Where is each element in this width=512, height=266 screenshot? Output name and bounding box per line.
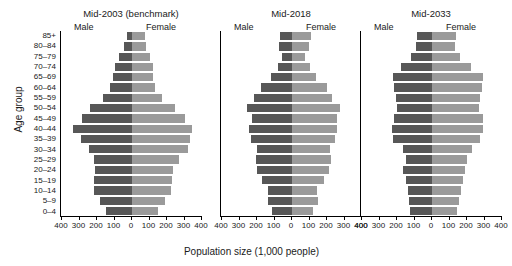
- bar-row: [62, 41, 202, 51]
- bar-row: [62, 144, 202, 154]
- bar-female: [292, 125, 337, 133]
- bar-row: [62, 72, 202, 82]
- bar-female: [292, 53, 305, 61]
- bar-male: [252, 114, 292, 122]
- bar-female: [132, 207, 158, 215]
- bar-row: [62, 31, 202, 41]
- x-tick-mark: [309, 217, 310, 220]
- bar-female: [292, 207, 313, 215]
- bar-female: [132, 197, 165, 205]
- bar-female: [432, 53, 460, 61]
- bar-female: [132, 114, 185, 122]
- age-tick: 75–79: [16, 52, 58, 62]
- bar-group: [362, 31, 502, 216]
- bar-male: [115, 63, 132, 71]
- age-tick: 5–9: [16, 196, 58, 206]
- bar-female: [432, 186, 461, 194]
- age-tick: 45–49: [16, 114, 58, 124]
- x-tick-mark: [184, 217, 185, 220]
- bar-row: [362, 62, 502, 72]
- bar-female: [292, 135, 335, 143]
- bar-male: [254, 94, 292, 102]
- x-tick-mark: [79, 217, 80, 220]
- bar-row: [222, 72, 362, 82]
- age-tick: 70–74: [16, 62, 58, 72]
- panel-mid-2033: Mid-2033 Male Female 4003002001000100200…: [360, 8, 502, 256]
- bar-female: [432, 114, 483, 122]
- bar-female: [432, 166, 465, 174]
- bar-male: [406, 155, 432, 163]
- x-tick-mark: [221, 217, 222, 220]
- bar-female: [292, 197, 318, 205]
- bar-female: [292, 166, 329, 174]
- bar-group: [222, 31, 362, 216]
- bar-row: [362, 175, 502, 185]
- bar-row: [362, 82, 502, 92]
- x-tick-mark: [239, 217, 240, 220]
- bar-row: [362, 134, 502, 144]
- bar-row: [362, 72, 502, 82]
- bar-male: [113, 73, 132, 81]
- bar-row: [222, 144, 362, 154]
- x-tick-mark: [379, 217, 380, 220]
- bar-row: [222, 196, 362, 206]
- panel-mid-2003: Mid-2003 (benchmark) Male Female 4003002…: [60, 8, 202, 256]
- age-tick: 10–14: [16, 186, 58, 196]
- x-tick-mark: [166, 217, 167, 220]
- bar-female: [292, 104, 340, 112]
- bar-female: [292, 42, 309, 50]
- bar-female: [292, 186, 317, 194]
- bar-row: [222, 175, 362, 185]
- bar-row: [222, 165, 362, 175]
- bar-male: [401, 63, 432, 71]
- bar-row: [222, 93, 362, 103]
- bar-male: [417, 32, 432, 40]
- bar-row: [62, 206, 202, 216]
- bar-female: [432, 197, 459, 205]
- bar-male: [416, 42, 432, 50]
- bar-female: [132, 63, 153, 71]
- age-group-tick-labels: 85+ 80–84 75–79 70–74 65–69 60–64 55–59 …: [16, 31, 58, 217]
- bar-male: [247, 104, 293, 112]
- bar-male: [282, 53, 292, 61]
- x-tick-mark: [344, 217, 345, 220]
- bar-row: [362, 196, 502, 206]
- age-tick: 20–24: [16, 165, 58, 175]
- bar-row: [62, 124, 202, 134]
- bar-row: [62, 196, 202, 206]
- bar-female: [432, 32, 456, 40]
- x-tick-mark: [501, 217, 502, 220]
- bar-male: [73, 125, 132, 133]
- bar-male: [409, 197, 432, 205]
- age-tick: 15–19: [16, 176, 58, 186]
- x-tick-mark: [431, 217, 432, 220]
- bar-male: [279, 42, 292, 50]
- age-tick: 40–44: [16, 124, 58, 134]
- x-tick-mark: [96, 217, 97, 220]
- x-tick-mark: [149, 217, 150, 220]
- age-tick: 55–59: [16, 93, 58, 103]
- bar-male: [124, 42, 132, 50]
- x-tick-mark: [61, 217, 62, 220]
- bar-row: [362, 52, 502, 62]
- bar-male: [272, 207, 292, 215]
- bar-male: [256, 155, 292, 163]
- bar-female: [432, 135, 480, 143]
- bar-female: [132, 104, 175, 112]
- bar-female: [292, 83, 327, 91]
- bar-female: [132, 135, 190, 143]
- age-tick: 50–54: [16, 103, 58, 113]
- bar-female: [292, 114, 337, 122]
- bar-male: [271, 73, 292, 81]
- bar-male: [393, 135, 432, 143]
- bar-male: [408, 186, 433, 194]
- bar-row: [62, 165, 202, 175]
- bar-male: [257, 145, 292, 153]
- bar-female: [432, 73, 483, 81]
- age-tick: 25–29: [16, 155, 58, 165]
- age-tick: 35–39: [16, 134, 58, 144]
- bar-row: [222, 31, 362, 41]
- panel-title: Mid-2003 (benchmark): [54, 8, 208, 19]
- bar-row: [222, 206, 362, 216]
